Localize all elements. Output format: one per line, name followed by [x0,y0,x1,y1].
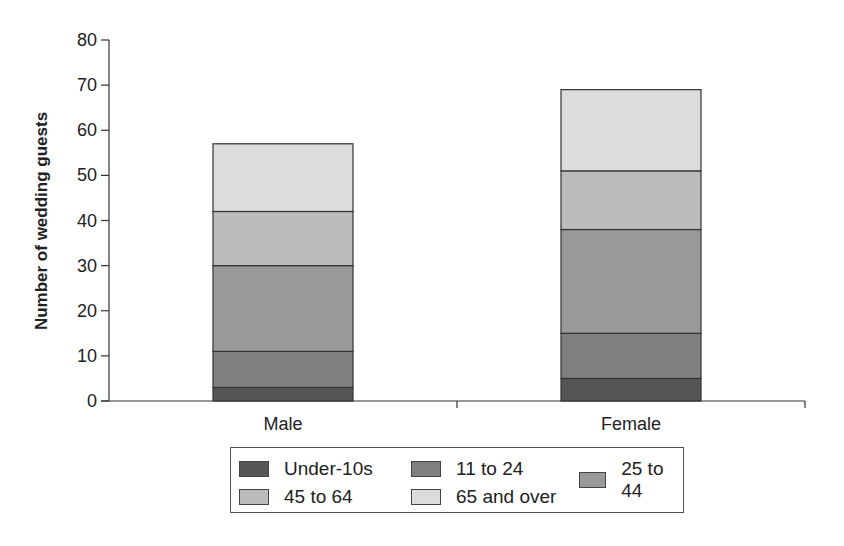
legend-item: 65 and over [411,486,556,508]
legend-swatch [411,461,441,477]
bar-segment [561,90,701,171]
y-tick-label: 0 [87,391,97,411]
legend-item: 11 to 24 [411,458,523,480]
y-tick-label: 30 [77,256,97,276]
y-tick-label: 80 [77,30,97,50]
bar-male [213,144,353,401]
bar-segment [213,211,353,265]
bar-segment [561,230,701,334]
legend-label: 65 and over [456,486,556,508]
legend-label: 11 to 24 [456,458,523,480]
bar-segment [561,378,701,401]
bar-segment [561,171,701,230]
legend-label: 45 to 64 [284,486,353,508]
legend-swatch [579,472,606,488]
y-tick-label: 40 [77,211,97,231]
x-tick-label: Female [601,414,661,434]
bar-female [561,90,701,401]
legend-swatch [411,489,441,505]
bar-segment [213,387,353,401]
bar-segment [213,351,353,387]
legend: Under-10s11 to 2425 to 4445 to 6465 and … [230,447,684,513]
y-axis: 01020304050607080 [77,30,109,411]
y-tick-label: 50 [77,165,97,185]
bar-segment [213,144,353,212]
y-tick-label: 70 [77,75,97,95]
y-tick-label: 10 [77,346,97,366]
y-tick-label: 60 [77,120,97,140]
bars [213,90,701,401]
x-axis: MaleFemale [101,401,805,434]
x-tick-label: Male [263,414,302,434]
legend-item: 25 to 44 [579,458,683,502]
bar-segment [561,333,701,378]
legend-swatch [239,489,269,505]
bar-segment [213,266,353,352]
legend-item: 45 to 64 [239,486,353,508]
legend-item: Under-10s [239,458,373,480]
legend-swatch [239,461,269,477]
legend-label: 25 to 44 [621,458,683,502]
legend-label: Under-10s [284,458,373,480]
y-tick-label: 20 [77,301,97,321]
y-axis-label: Number of wedding guests [32,112,51,330]
